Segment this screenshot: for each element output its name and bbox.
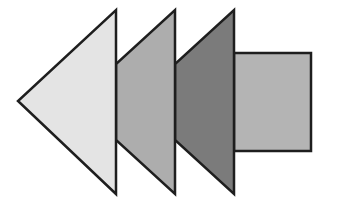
- triangle-medium-shape: [116, 10, 175, 194]
- triangle-dark-shape: [175, 10, 234, 194]
- diagram-canvas: [0, 0, 337, 221]
- triangle-light-arrowhead-shape: [18, 10, 116, 194]
- arrow-diagram: [0, 0, 337, 221]
- rectangle-tail-shape: [234, 53, 311, 151]
